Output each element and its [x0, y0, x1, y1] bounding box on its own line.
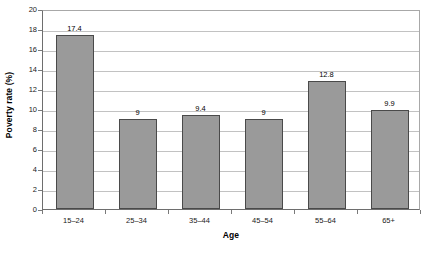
x-axis-tick-label: 15–24 — [63, 216, 84, 225]
y-axis-tick-label: 0 — [14, 206, 40, 214]
bar-chart: Poverty rate (%) 20181614121086420 17.49… — [0, 0, 432, 254]
y-axis-tick-label: 16 — [14, 46, 40, 54]
bar-slot: 17.4 — [43, 11, 106, 209]
y-axis-tick-label: 2 — [14, 186, 40, 194]
bars-layer: 17.499.4912.89.9 — [43, 11, 419, 209]
x-axis-tick-label: 25–34 — [126, 216, 147, 225]
y-axis-tick-label: 8 — [14, 126, 40, 134]
y-axis-tick-label: 14 — [14, 66, 40, 74]
bar-value-label: 9.4 — [195, 104, 205, 113]
bar[interactable] — [56, 35, 94, 209]
y-axis-tick-mark — [38, 90, 42, 91]
scan-artifact-strip — [0, 247, 432, 254]
y-axis-tick-mark — [38, 170, 42, 171]
x-axis-tick-mark — [168, 210, 169, 214]
y-axis-tick-label: 12 — [14, 86, 40, 94]
bar-slot: 12.8 — [295, 11, 358, 209]
bar[interactable] — [119, 119, 157, 209]
bar-value-label: 9 — [261, 108, 265, 117]
y-axis-tick-mark — [38, 130, 42, 131]
x-axis-tick-mark — [294, 210, 295, 214]
x-axis-tick-label: 35–44 — [189, 216, 210, 225]
y-axis-tick-mark — [38, 210, 42, 211]
bar-slot: 9 — [106, 11, 169, 209]
x-axis-tick-label: 45–54 — [252, 216, 273, 225]
bar-value-label: 12.8 — [319, 70, 334, 79]
bar-slot: 9.4 — [169, 11, 232, 209]
x-axis-tick-mark — [105, 210, 106, 214]
bar[interactable] — [182, 115, 220, 209]
x-axis-tick-mark — [231, 210, 232, 214]
y-axis-tick-mark — [38, 150, 42, 151]
y-axis-tick-mark — [38, 70, 42, 71]
bar-value-label: 9 — [135, 108, 139, 117]
y-axis-tick-mark — [38, 30, 42, 31]
y-axis-tick-label: 6 — [14, 146, 40, 154]
x-axis-title: Age — [42, 230, 420, 240]
y-axis-tick-mark — [38, 190, 42, 191]
x-axis-tick-mark — [357, 210, 358, 214]
y-axis-tick-label: 10 — [14, 106, 40, 114]
x-axis-tick-label: 65+ — [382, 216, 395, 225]
bar-slot: 9 — [232, 11, 295, 209]
y-axis-tick-mark — [38, 50, 42, 51]
y-axis-tick-label: 20 — [14, 6, 40, 14]
y-axis-tick-labels: 20181614121086420 — [14, 0, 40, 254]
bar-slot: 9.9 — [358, 11, 421, 209]
bar-value-label: 9.9 — [384, 99, 394, 108]
y-axis-tick-mark — [38, 10, 42, 11]
x-axis-tick-label: 55–64 — [315, 216, 336, 225]
y-axis-tick-label: 18 — [14, 26, 40, 34]
bar[interactable] — [371, 110, 409, 209]
x-axis-tick-mark — [420, 210, 421, 214]
y-axis-tick-mark — [38, 110, 42, 111]
bar[interactable] — [308, 81, 346, 209]
y-axis-tick-label: 4 — [14, 166, 40, 174]
bar[interactable] — [245, 119, 283, 209]
bar-value-label: 17.4 — [67, 24, 82, 33]
x-axis-tick-mark — [42, 210, 43, 214]
plot-area: 17.499.4912.89.9 — [42, 10, 420, 210]
